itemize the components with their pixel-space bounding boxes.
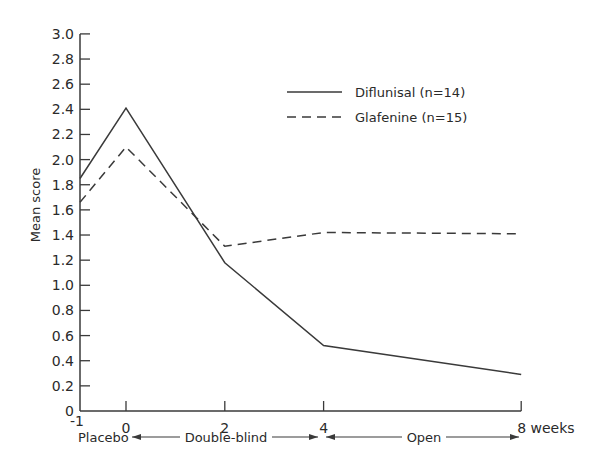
y-tick-label: 0.2 [52,378,74,394]
x-tick-label: 4 [319,420,328,436]
legend-label: Glafenine (n=15) [355,110,467,125]
y-tick-label: 2.4 [52,101,74,117]
y-tick-label: 1.6 [52,202,74,218]
arrow-right-icon [309,434,318,440]
phase-label-open: Open [407,430,442,445]
y-tick-label: 2.6 [52,76,74,92]
legend: Diflunisal (n=14)Glafenine (n=15) [287,85,467,125]
y-tick-label: 0.4 [52,353,74,369]
y-tick-label: 1.2 [52,252,74,268]
x-tick-label: 8 weeks [517,420,574,436]
phase-annotations: PlaceboDouble-blindOpen [78,430,519,445]
legend-label: Diflunisal (n=14) [355,85,465,100]
chart-canvas: 00.20.40.60.81.01.21.41.61.82.02.22.42.6… [0,0,589,465]
glafenine-line [80,147,521,246]
y-tick-label: 1.0 [52,277,74,293]
y-tick-label: 0.6 [52,328,74,344]
y-tick-label: 1.8 [52,177,74,193]
diflunisal-line [80,108,521,374]
line-chart: 00.20.40.60.81.01.21.41.61.82.02.22.42.6… [0,0,589,465]
series-lines [80,108,521,374]
y-tick-label: 2.2 [52,126,74,142]
y-tick-label: 1.4 [52,227,74,243]
y-axis: 00.20.40.60.81.01.21.41.61.82.02.22.42.6… [52,26,90,419]
x-tick-label: -1 [70,413,84,429]
phase-label-double-blind: Double-blind [185,430,268,445]
y-tick-label: 2.8 [52,51,74,67]
x-axis: -10248 weeks [70,401,575,436]
y-tick-label: 3.0 [52,26,74,42]
y-tick-label: 2.0 [52,152,74,168]
phase-label-placebo: Placebo [78,430,129,445]
y-axis-title: Mean score [28,168,43,242]
y-tick-label: 0.8 [52,302,74,318]
